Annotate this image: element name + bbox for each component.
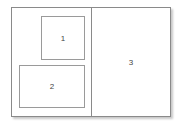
region-3-label: 3: [129, 58, 133, 67]
region-2: 2: [19, 65, 85, 108]
region-2-label: 2: [50, 82, 54, 91]
region-1: 1: [41, 16, 85, 60]
region-1-label: 1: [61, 34, 65, 43]
region-3: 3: [92, 8, 170, 116]
page-spread: 1 2 3: [11, 7, 171, 117]
